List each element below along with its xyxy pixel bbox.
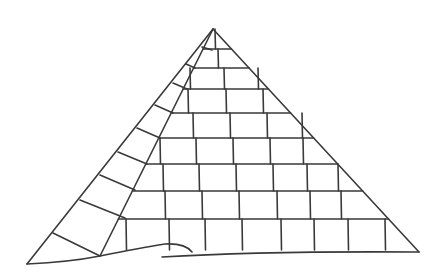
block-joint-line [307,164,308,191]
block-joint-line [224,68,225,89]
block-joint-line [270,138,271,164]
block-joint-line [258,68,259,89]
block-joint-line [385,219,386,250]
block-joint-line [188,89,189,113]
left-face-division-line [100,175,135,190]
left-face-division-line [80,200,125,218]
block-joint-line [190,68,191,89]
block-joint-line [348,219,349,250]
block-joint-line [267,113,268,138]
block-joint-line [205,219,206,250]
pyramid-drawing [0,0,441,274]
block-joint-line [314,219,315,250]
block-joint-line [273,164,274,191]
ground-line-right [162,252,419,257]
pyramid-block-rows [118,49,388,219]
ground-sand-line [27,244,419,264]
block-joint-line [230,113,231,138]
block-joint-line [226,89,227,113]
ground-line-left [27,244,192,264]
block-joint-line [126,219,127,250]
block-joint-line [215,29,216,49]
left-face-division-line [118,152,147,164]
block-joint-line [281,219,282,250]
left-face-division-line [137,128,160,138]
block-joint-line [236,164,237,191]
block-joint-line [218,49,219,68]
block-joint-line [239,191,240,219]
block-joint-line [242,219,243,250]
block-joint-line [199,164,200,191]
block-joint-line [341,191,342,219]
pyramid-illustration [0,0,441,274]
block-joint-line [338,164,339,191]
left-edge-line [27,29,213,264]
block-joint-line [163,164,164,191]
block-joint-line [193,113,194,138]
left-face-division-line [155,105,173,113]
block-joint-line [302,113,303,138]
block-joint-line [277,191,278,219]
pyramid-block-joints [126,29,386,250]
block-joint-line [160,138,161,164]
block-joint-line [233,138,234,164]
left-face-division-line [53,233,100,256]
pyramid-outline [27,29,419,264]
block-joint-line [165,191,166,219]
block-joint-line [196,138,197,164]
block-joint-line [263,89,264,113]
block-joint-line [310,191,311,219]
block-joint-line [169,219,170,250]
block-joint-line [202,191,203,219]
block-joint-line [303,138,304,164]
